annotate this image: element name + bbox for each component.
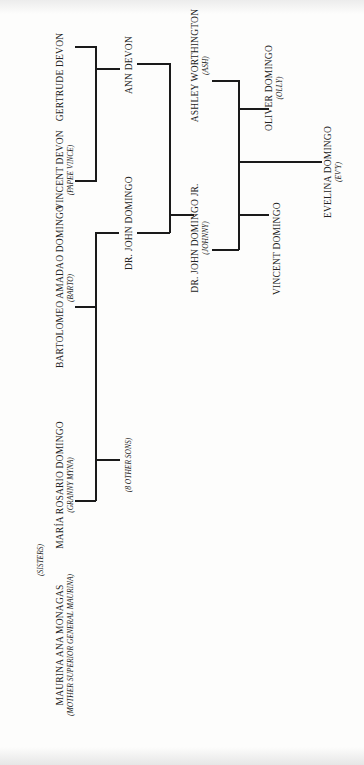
- person-name: OLIVER DOMINGO: [264, 38, 275, 138]
- connector-vincent-devon: [75, 180, 97, 182]
- page-edge-bottom: [0, 747, 364, 765]
- connector-to-john: [95, 232, 119, 234]
- person-nickname: (OLLY): [275, 38, 284, 138]
- person-evelina-domingo: EVELINA DOMINGO (EV'Y): [323, 122, 343, 222]
- person-name: VINCENT DOMINGO: [272, 205, 283, 295]
- connector-vincent-domingo: [239, 214, 269, 216]
- person-john-domingo: DR. JOHN DOMINGO: [124, 180, 135, 270]
- connector-bartolomeo: [75, 306, 96, 308]
- person-name: MARÍA ROSARIO DOMINGO: [55, 420, 66, 550]
- connector-evelina: [239, 161, 322, 163]
- person-nickname: (8 OTHER SONS): [124, 430, 133, 500]
- person-vincent-domingo: VINCENT DOMINGO: [272, 205, 283, 295]
- connector-to-ann: [96, 68, 120, 70]
- connector-maria: [75, 500, 96, 502]
- person-name: GERTRUDE DEVON: [55, 32, 66, 122]
- person-name: MAURINA ANA MONAGAS: [55, 560, 66, 730]
- connector-other-sons: [96, 459, 120, 461]
- person-gertrude-devon: GERTRUDE DEVON: [55, 32, 66, 122]
- connector-ann: [137, 63, 170, 65]
- person-name: ANN DEVON: [124, 30, 135, 100]
- person-name: BARTOLOMEO AMADAO DOMINGO: [55, 208, 66, 368]
- connector-johnny: [212, 249, 239, 251]
- person-ashley-worthington: ASHLEY WORTHINGTON (ASH): [190, 8, 210, 123]
- person-name: DR. JOHN DOMINGO: [124, 180, 135, 270]
- person-nickname: (MOTHER SUPERIOR GENERAL MAURINA): [66, 560, 75, 730]
- person-nickname: (ASH): [201, 8, 210, 123]
- person-nickname: (BARTO): [66, 208, 75, 368]
- connector-gertrude: [75, 46, 97, 48]
- person-nickname: (GRANNY MYNA): [66, 420, 75, 550]
- person-oliver-domingo: OLIVER DOMINGO (OLLY): [264, 38, 284, 138]
- person-maria-rosario-domingo: MARÍA ROSARIO DOMINGO (GRANNY MYNA): [55, 420, 75, 550]
- person-nickname: (EV'Y): [334, 122, 343, 222]
- person-name: ASHLEY WORTHINGTON: [190, 8, 201, 123]
- person-maurina-ana-monagas: MAURINA ANA MONAGAS (MOTHER SUPERIOR GEN…: [55, 560, 75, 730]
- person-ann-devon: ANN DEVON: [124, 30, 135, 100]
- person-vincent-devon: VINCENT DEVON (PAPEE VINCE): [55, 125, 75, 215]
- person-bartolomeo-domingo: BARTOLOMEO AMADAO DOMINGO (BARTO): [55, 208, 75, 368]
- person-name: VINCENT DEVON: [55, 125, 66, 215]
- sisters-label: (SISTERS): [36, 520, 45, 600]
- relationship-note: (SISTERS): [36, 520, 45, 600]
- person-name: DR. JOHN DOMINGO JR.: [190, 173, 201, 303]
- person-john-domingo-jr: DR. JOHN DOMINGO JR. (JOHNNY): [190, 173, 210, 303]
- connector-ashley: [212, 80, 239, 82]
- connector-devon-couple: [95, 46, 97, 181]
- person-nickname: (JOHNNY): [201, 173, 210, 303]
- person-name: EVELINA DOMINGO: [323, 122, 334, 222]
- other-sons-label: (8 OTHER SONS): [124, 430, 133, 500]
- connector-johnny-ashley-couple: [238, 80, 240, 250]
- page-edge-top: [0, 0, 364, 14]
- connector-john: [137, 232, 170, 234]
- person-nickname: (PAPEE VINCE): [66, 125, 75, 215]
- connector-ann-john-couple: [169, 63, 171, 233]
